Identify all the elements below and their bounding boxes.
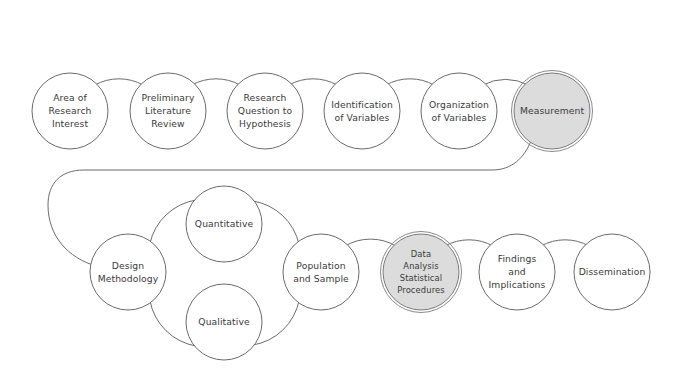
research-process-flowchart: Area ofResearchInterestPreliminaryLitera… — [0, 0, 678, 374]
nodes-layer: Area ofResearchInterestPreliminaryLitera… — [32, 71, 650, 361]
node-label-dissemination: Dissemination — [579, 266, 646, 277]
node-label-line: Preliminary — [142, 92, 195, 103]
connector-area-to-preliminary — [95, 79, 143, 85]
node-data-analysis-statistical-procedures[interactable]: DataAnalysisStatisticalProcedures — [381, 232, 462, 313]
node-label-line: of Variables — [432, 111, 487, 122]
node-label-line: Dissemination — [579, 266, 646, 277]
node-label-line: Analysis — [403, 261, 438, 271]
flowchart-canvas: Area ofResearchInterestPreliminaryLitera… — [0, 0, 678, 374]
node-label-line: Review — [151, 118, 185, 129]
node-label-line: and Sample — [293, 272, 349, 283]
node-label-line: Procedures — [397, 285, 444, 295]
node-area-of-research-interest[interactable]: Area ofResearchInterest — [32, 73, 108, 149]
node-measurement[interactable]: Measurement — [512, 71, 593, 152]
node-label-line: Quantitative — [195, 218, 254, 229]
node-label-line: Population — [296, 259, 345, 270]
connector-findings-to-dissemination — [541, 240, 589, 246]
node-label-line: Qualitative — [198, 316, 250, 327]
node-label-line: Measurement — [520, 105, 584, 116]
connector-population-to-data-analysis — [345, 239, 396, 246]
node-label-line: Literature — [145, 105, 191, 116]
node-label-area-of-research-interest: Area ofResearchInterest — [49, 92, 92, 129]
node-organization-of-variables[interactable]: Organizationof Variables — [421, 73, 497, 149]
node-label-line: Hypothesis — [239, 118, 291, 129]
connector-research-question-to-identification — [289, 79, 337, 85]
node-design-methodology[interactable]: DesignMethodology — [90, 234, 166, 310]
node-label-line: of Variables — [335, 111, 390, 122]
node-label-line: Findings — [498, 253, 537, 264]
node-label-line: Area of — [53, 92, 87, 103]
node-preliminary-literature-review[interactable]: PreliminaryLiteratureReview — [130, 73, 206, 149]
bottom-row: DesignMethodologyQuantitativeQualitative… — [90, 186, 650, 360]
node-findings-and-implications[interactable]: FindingsandImplications — [479, 234, 555, 310]
node-label-line: Statistical — [400, 273, 442, 283]
connector-data-analysis-to-findings — [445, 240, 493, 246]
node-label-line: Data — [411, 249, 431, 259]
node-dissemination[interactable]: Dissemination — [574, 234, 650, 310]
connector-identification-to-organization — [386, 79, 434, 85]
node-label-line: Research — [244, 92, 287, 103]
node-label-line: Organization — [429, 98, 489, 109]
node-identification-of-variables[interactable]: Identificationof Variables — [324, 73, 400, 149]
node-label-measurement: Measurement — [520, 105, 584, 116]
node-label-line: Research — [49, 105, 92, 116]
node-qualitative[interactable]: Qualitative — [186, 284, 262, 360]
node-label-line: Question to — [238, 105, 293, 116]
node-population-and-sample[interactable]: Populationand Sample — [283, 234, 359, 310]
node-label-line: Methodology — [98, 272, 159, 283]
node-label-quantitative: Quantitative — [195, 218, 254, 229]
node-research-question-to-hypothesis[interactable]: ResearchQuestion toHypothesis — [227, 73, 303, 149]
node-label-line: Design — [112, 259, 144, 270]
top-row: Area ofResearchInterestPreliminaryLitera… — [32, 71, 593, 152]
node-label-research-question-to-hypothesis: ResearchQuestion toHypothesis — [238, 92, 293, 129]
node-label-line: Interest — [52, 118, 89, 129]
node-label-line: Implications — [489, 279, 546, 290]
node-quantitative[interactable]: Quantitative — [186, 186, 262, 262]
node-label-line: Identification — [331, 98, 393, 109]
node-label-qualitative: Qualitative — [198, 316, 250, 327]
connector-preliminary-to-research-question — [192, 79, 240, 85]
node-label-line: and — [508, 266, 526, 277]
